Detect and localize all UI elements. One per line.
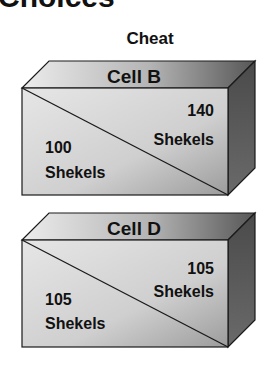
- box-cell-b: Cell B 140 Shekels 100 Shekels: [22, 61, 255, 195]
- lower-left-unit: Shekels: [45, 315, 106, 332]
- upper-right-amount: 105: [187, 260, 214, 277]
- lower-left-amount: 105: [45, 291, 72, 308]
- diagram-title: Choices: [0, 0, 115, 13]
- box-cell-d: Cell D 105 Shekels 105 Shekels: [22, 213, 255, 347]
- upper-right-unit: Shekels: [154, 283, 215, 300]
- cell-label: Cell D: [107, 218, 161, 239]
- cell-label: Cell B: [107, 66, 161, 87]
- payoff-diagram: Choices Cheat Cell B 140 Shekels 100 She…: [0, 0, 275, 368]
- upper-right-amount: 140: [187, 102, 214, 119]
- upper-right-unit: Shekels: [154, 131, 215, 148]
- column-label-cheat: Cheat: [126, 29, 174, 48]
- lower-left-unit: Shekels: [45, 164, 106, 181]
- lower-left-amount: 100: [45, 139, 72, 156]
